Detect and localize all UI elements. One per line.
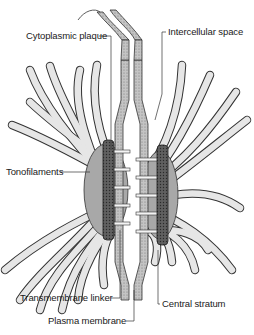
cytoplasmic-plaque-left — [103, 140, 114, 240]
cytoplasmic-plaque-right — [157, 145, 168, 245]
label-plasma-membrane: Plasma membrane — [48, 315, 126, 326]
label-transmembrane-linker: Transmembrane linker — [20, 292, 113, 303]
label-cytoplasmic-plaque: Cytoplasmic plaque — [26, 30, 107, 41]
label-central-stratum: Central stratum — [162, 298, 225, 309]
label-tonofilaments: Tonofilaments — [6, 166, 63, 177]
label-intercellular-space: Intercellular space — [168, 26, 243, 37]
